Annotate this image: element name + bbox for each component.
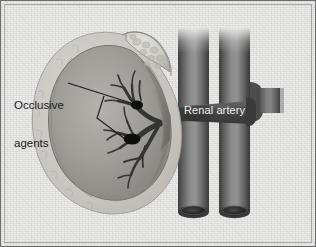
inferior-vena-cava	[178, 27, 209, 218]
occlusive-agents-label-line2: agents	[14, 137, 64, 150]
renal-artery-label: Renal artery	[184, 104, 245, 116]
occlusive-agents-label: Occlusive agents	[14, 74, 64, 174]
occlusive-agents-label-line1: Occlusive	[14, 99, 64, 112]
occlusive-agent-lower	[124, 133, 141, 144]
figure-root: Occlusive agents Renal artery	[0, 0, 316, 247]
occlusive-agent-upper	[131, 100, 143, 109]
